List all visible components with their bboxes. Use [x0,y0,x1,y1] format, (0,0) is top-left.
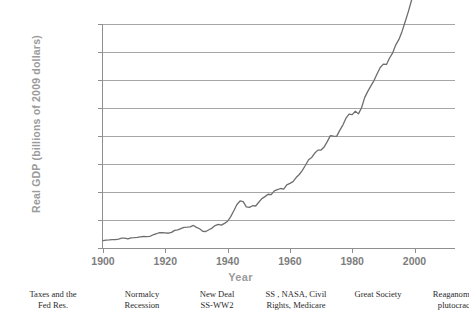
era-annotation: SS , NASA, CivilRights, Medicare [250,289,342,311]
x-tick-mark [165,248,166,253]
era-annotation-line: Rights, Medicare [250,300,342,311]
era-annotation: Great Society [340,289,416,300]
era-annotation-line: SS-WW2 [181,300,253,311]
x-tick-label: 1960 [265,255,315,267]
x-axis-title-text: Year [228,271,252,283]
x-axis-title: Year [0,271,469,283]
x-tick-label: 1980 [327,255,377,267]
era-annotation: Reaganomicsplutocracy [414,289,469,311]
plot-area: 02,0004,0006,0008,00010,00012,00014,0001… [103,24,455,248]
era-annotation: NormalcyRecession [103,289,181,311]
gdp-chart: Real GDP (billions of 2009 dollars) 02,0… [0,0,469,327]
era-annotation: New DealSS-WW2 [181,289,253,311]
gdp-line-series [103,24,455,248]
era-annotation-line: plutocracy [414,300,469,311]
era-annotation-line: Fed Res. [10,300,96,311]
x-tick-mark [228,248,229,253]
era-annotation-line: New Deal [181,289,253,300]
x-tick-mark [352,248,353,253]
x-tick-label: 2000 [390,255,440,267]
gdp-line [103,0,455,241]
x-tick-label: 1900 [78,255,128,267]
x-tick-mark [290,248,291,253]
x-tick-mark [415,248,416,253]
x-axis-line [102,248,455,249]
x-tick-mark [103,248,104,253]
era-annotation-line: Normalcy [103,289,181,300]
era-annotation: Taxes and theFed Res. [10,289,96,311]
era-annotations: Taxes and theFed Res.NormalcyRecessionNe… [0,289,469,323]
x-tick-label: 1920 [140,255,190,267]
era-annotation-line: Reaganomics [414,289,469,300]
era-annotation-line: Great Society [340,289,416,300]
era-annotation-line: SS , NASA, Civil [250,289,342,300]
x-tick-label: 1940 [203,255,253,267]
y-axis-title: Real GDP (billions of 2009 dollars) [30,4,42,244]
era-annotation-line: Recession [103,300,181,311]
era-annotation-line: Taxes and the [10,289,96,300]
